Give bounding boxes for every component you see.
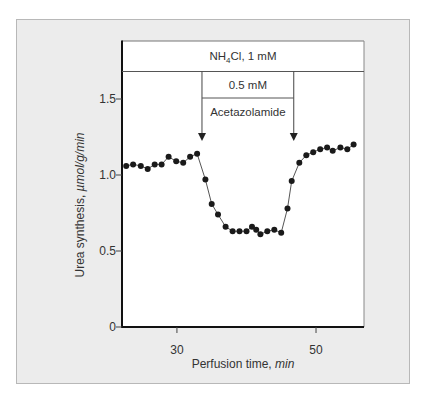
data-point [209,201,215,207]
data-point [344,146,350,152]
data-point [138,163,144,169]
data-point [173,158,179,164]
data-point [194,151,200,157]
y-tick-label: 1.5 [99,92,116,106]
data-point [289,178,295,184]
y-axis-label: Urea synthesis, µmol/g/min [73,132,87,277]
data-point [152,161,158,167]
y-tick-label: 0.5 [99,244,116,258]
x-axis-label: Perfusion time, min [192,357,295,371]
x-tick-label: 50 [309,343,323,357]
inner-band-label: 0.5 mM [229,79,267,91]
data-point [123,163,129,169]
data-point [166,154,172,160]
data-point [330,148,336,154]
data-point [159,161,165,167]
y-tick-label: 0 [109,320,116,334]
data-point [215,212,221,218]
data-point [310,149,316,155]
data-point [303,152,309,158]
data-point [337,145,343,151]
data-point [324,145,330,151]
x-tick-label: 30 [170,343,184,357]
data-point [145,166,151,172]
data-point [253,227,259,233]
y-tick-label: 1.0 [99,168,116,182]
data-point [244,228,250,234]
data-point [271,227,277,233]
y-ticks: 00.51.01.5 [99,92,122,334]
data-point [317,146,323,152]
data-point [296,160,302,166]
data-point [202,177,208,183]
data-point [180,160,186,166]
data-point [351,142,357,148]
data-point [230,228,236,234]
data-point [264,228,270,234]
data-point [278,230,284,236]
data-point [130,161,136,167]
x-ticks: 3050 [170,327,323,357]
data-point [187,154,193,160]
data-point [237,228,243,234]
data-point [285,205,291,211]
line-chart: NH4Cl, 1 mM 0.5 mMAcetazolamide 00.51.01… [0,0,424,393]
data-point [223,224,229,230]
drug-label: Acetazolamide [210,106,285,118]
data-point [257,231,263,237]
